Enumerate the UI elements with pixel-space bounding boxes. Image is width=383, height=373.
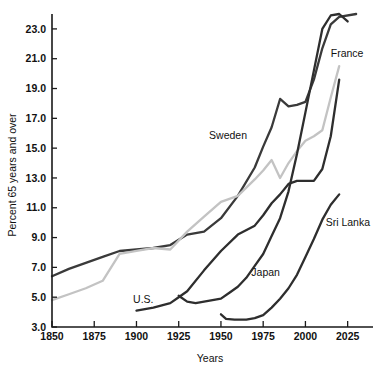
series-label-sweden: Sweden [209,129,247,141]
y-tick-label: 11.0 [26,201,46,213]
series-label-u-s: U.S. [133,293,153,305]
labels-layer: 3.05.07.09.011.013.015.017.019.021.023.0… [26,23,371,342]
series-line-france [52,66,339,300]
y-tick-label: 21.0 [26,52,47,64]
series-line-japan [179,14,348,303]
series-line-sweden [52,14,356,276]
line-chart: 3.05.07.09.011.013.015.017.019.021.023.0… [0,0,383,373]
x-tick-label: 1950 [209,330,233,342]
series-layer [52,14,356,320]
y-tick-label: 7.0 [31,261,46,273]
y-tick-label: 5.0 [31,291,46,303]
y-tick-label: 19.0 [26,82,47,94]
y-axis-title: Percent 65 years and over [6,113,18,237]
x-tick-label: 2025 [336,330,360,342]
series-label-france: France [331,47,364,59]
y-tick-label: 17.0 [26,112,47,124]
y-tick-label: 13.0 [26,172,47,184]
x-axis-title: Years [197,352,223,364]
axes-layer [52,14,373,327]
y-tick-label: 9.0 [31,231,46,243]
x-tick-label: 1900 [125,330,149,342]
y-tick-label: 23.0 [26,23,47,35]
series-label-sri-lanka: Sri Lanka [326,216,371,228]
series-line-sri-lanka [221,194,339,319]
series-label-japan: Japan [251,266,280,278]
chart-container: 3.05.07.09.011.013.015.017.019.021.023.0… [0,0,383,373]
x-tick-label: 1875 [83,330,107,342]
y-tick-label: 15.0 [26,142,47,154]
x-tick-label: 1850 [40,330,64,342]
x-tick-label: 2000 [294,330,318,342]
x-tick-label: 1975 [252,330,276,342]
axis-frame [52,14,373,327]
x-tick-label: 1925 [167,330,191,342]
